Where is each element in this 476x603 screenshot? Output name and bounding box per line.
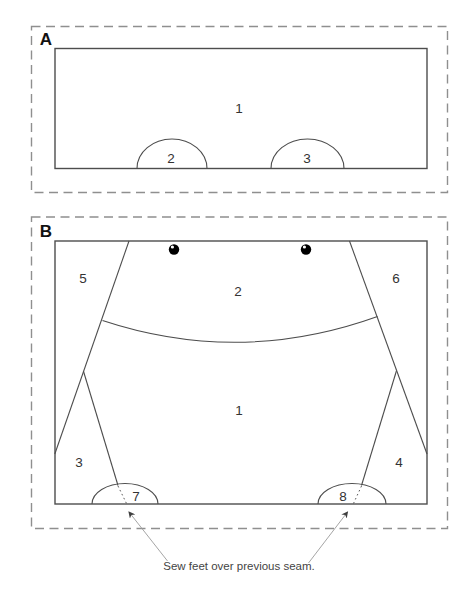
left-eye-bead [169, 244, 179, 254]
panel-b-region-2-label: 2 [234, 284, 242, 299]
panel-a-region-1-label: 1 [235, 101, 243, 116]
panel-b-region-1-label: 1 [235, 403, 243, 418]
panel-b-letter: B [40, 222, 52, 241]
annotation-text: Sew feet over previous seam. [163, 560, 315, 572]
panel-b-foot-left-arc [92, 484, 158, 505]
panel-b-region-5-label: 5 [79, 271, 87, 286]
panel-b-left-leg-seam [83, 371, 118, 486]
panel-a-region-2-label: 2 [167, 151, 175, 166]
panel-b-neck-curve-seam [103, 317, 378, 343]
panel-b-region-4-label: 4 [395, 455, 403, 470]
panel-b-region-7-label: 7 [132, 489, 140, 504]
left-eye-bead-highlight-icon [171, 245, 174, 248]
panel-b-foot-right-arc [318, 484, 386, 505]
right-eye-bead [301, 244, 311, 254]
annotation-callout: Sew feet over previous seam. [129, 512, 348, 572]
panel-b-body-outline [55, 241, 427, 504]
panel-b-foot-right-hidden-seam [354, 486, 362, 504]
panel-b-right-diagonal-seam [350, 241, 428, 454]
panel-b-region-6-label: 6 [392, 271, 400, 286]
sewing-pattern-figure: A 1 2 3 B [0, 0, 476, 603]
panel-a: A 1 2 3 [32, 27, 448, 193]
left-arrow-leader-icon [129, 512, 168, 561]
panel-b-region-8-label: 8 [339, 489, 347, 504]
panel-a-letter: A [40, 30, 52, 49]
panel-b-right-leg-seam [362, 371, 397, 486]
right-eye-bead-highlight-icon [303, 245, 306, 248]
panel-a-region-3-label: 3 [303, 151, 311, 166]
panel-b-foot-left-hidden-seam [118, 486, 127, 504]
panel-b-region-3-label: 3 [75, 455, 83, 470]
pattern-diagram-svg: A 1 2 3 B [0, 0, 476, 603]
panel-b: B 1 2 3 4 5 6 7 8 [32, 217, 448, 529]
right-arrow-leader-icon [309, 512, 348, 563]
panel-b-dashed-border [32, 217, 448, 529]
panel-b-left-diagonal-seam [55, 241, 129, 454]
